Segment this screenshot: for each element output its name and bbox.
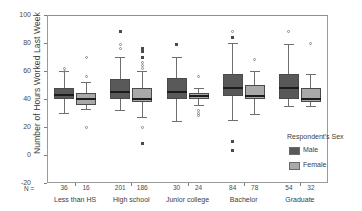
whisker-cap-upper: [81, 82, 91, 83]
outlier-point: [85, 75, 88, 78]
outlier-point: [119, 47, 122, 50]
extreme-point: [141, 56, 144, 59]
y-tick-mark: [44, 183, 47, 184]
whisker-cap-lower: [137, 117, 147, 118]
whisker-cap-upper: [250, 71, 260, 72]
median-line: [223, 87, 243, 89]
x-axis-category-label: Graduate: [255, 196, 345, 203]
outlier-point: [141, 61, 144, 64]
median-line: [245, 95, 265, 97]
whisker-cap-lower: [284, 106, 294, 107]
extreme-point: [141, 142, 144, 145]
median-line: [76, 98, 96, 100]
n-value-label: 78: [242, 185, 268, 192]
legend-label-female: Female: [303, 161, 326, 168]
whisker-cap-lower: [228, 120, 238, 121]
n-value-label: 32: [298, 185, 324, 192]
median-line: [301, 98, 321, 100]
median-line: [279, 87, 299, 89]
legend-swatch-female: [289, 162, 300, 170]
whisker-cap-upper: [228, 43, 238, 44]
whisker-cap-upper: [306, 74, 316, 75]
legend-swatch-male: [289, 147, 300, 155]
box-male: [223, 74, 243, 96]
whisker-cap-upper: [137, 71, 147, 72]
outlier-point: [141, 67, 144, 70]
whisker-cap-lower: [194, 105, 204, 106]
y-tick-label: 20: [7, 123, 31, 130]
whisker-cap-lower: [81, 109, 91, 110]
extreme-point: [141, 47, 144, 50]
n-value-label: 16: [73, 185, 99, 192]
whisker-cap-upper: [115, 57, 125, 58]
box-male: [167, 78, 187, 99]
y-tick-label: 100: [7, 11, 31, 18]
whisker-cap-upper: [172, 57, 182, 58]
legend-title: Respondent's Sex: [287, 133, 344, 140]
extreme-point: [231, 140, 234, 143]
n-prefix-label: N =: [24, 185, 34, 192]
median-line: [132, 98, 152, 100]
y-axis-title: Number of Hours Worked Last Week: [32, 3, 42, 163]
extreme-point: [119, 30, 122, 33]
median-line: [167, 91, 187, 93]
extreme-point: [175, 43, 178, 46]
whisker-cap-lower: [172, 121, 182, 122]
median-line: [110, 91, 130, 93]
box-male: [110, 79, 130, 99]
whisker-cap-lower: [250, 114, 260, 115]
y-tick-label: 60: [7, 67, 31, 74]
legend-label-male: Male: [303, 146, 318, 153]
n-value-label: 186: [129, 185, 155, 192]
median-line: [54, 94, 74, 96]
outlier-point: [85, 56, 88, 59]
whisker-cap-upper: [284, 44, 294, 45]
outlier-point: [119, 43, 122, 46]
outlier-point: [85, 126, 88, 129]
n-value-label: 24: [186, 185, 212, 192]
outlier-point: [141, 64, 144, 67]
extreme-point: [231, 149, 234, 152]
median-line: [189, 95, 209, 97]
whisker-cap-lower: [115, 110, 125, 111]
whisker-cap-lower: [59, 113, 69, 114]
outlier-point: [63, 70, 66, 73]
extreme-point: [231, 36, 234, 39]
y-tick-label: 0: [7, 151, 31, 158]
y-tick-label: 40: [7, 95, 31, 102]
outlier-point: [63, 67, 66, 70]
extreme-point: [141, 50, 144, 53]
outlier-point: [141, 126, 144, 129]
boxplot-chart: Number of Hours Worked Last Week 1008060…: [0, 0, 362, 211]
whisker-cap-lower: [306, 106, 316, 107]
y-tick-label: 80: [7, 39, 31, 46]
whisker-cap-upper: [194, 88, 204, 89]
